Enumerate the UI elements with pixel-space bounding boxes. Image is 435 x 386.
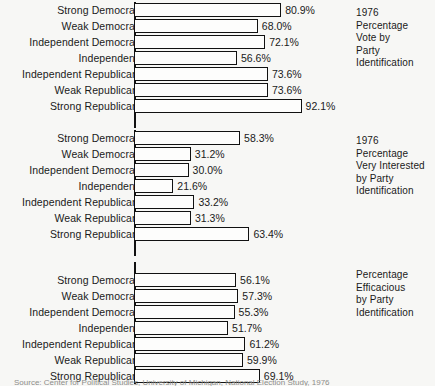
bar-category-label: Independent Democrat: [29, 304, 138, 320]
table-row: Strong Republican 92.1%: [0, 98, 435, 114]
bar-value-label: 68.0%: [258, 19, 292, 33]
bar-category-label: Independent Democrat: [29, 162, 138, 178]
table-row: Weak Republican 31.3%: [0, 210, 435, 226]
bar-category-label: Strong Republican: [50, 98, 138, 114]
panel-title-efficacious: Percentage Efficacious by Party Identifi…: [356, 269, 414, 319]
bar-category-label: Independent Republican: [22, 66, 138, 82]
bar-category-label: Weak Republican: [54, 352, 138, 368]
bar: [134, 305, 235, 319]
bar-value-label: 55.3%: [235, 305, 269, 319]
bar-value-label: 61.2%: [245, 337, 279, 351]
bar: [134, 273, 236, 287]
bar-value-label: 58.3%: [240, 131, 274, 145]
bar: [134, 337, 245, 351]
bar-value-label: 59.9%: [243, 353, 277, 367]
bar-value-label: 63.4%: [249, 227, 283, 241]
bar-category-label: Independent Democrat: [29, 34, 138, 50]
bar: [134, 19, 258, 33]
bar-category-label: Independent: [79, 178, 139, 194]
bar-value-label: 72.1%: [265, 35, 299, 49]
bar: [134, 195, 194, 209]
bar-value-label: 92.1%: [302, 99, 336, 113]
bar-category-label: Independent Republican: [22, 336, 138, 352]
bar-category-label: Weak Democrat: [62, 288, 138, 304]
bar-value-label: 56.6%: [237, 51, 271, 65]
bar-category-label: Independent: [79, 320, 139, 336]
bar: [134, 147, 191, 161]
bar-value-label: 73.6%: [268, 83, 302, 97]
bar: [134, 179, 173, 193]
figure-bar-chart-party-identification: Strong Democrat 80.9% Weak Democrat 68.0…: [0, 0, 435, 386]
bar-value-label: 73.6%: [268, 67, 302, 81]
bar: [134, 211, 191, 225]
bar: [134, 67, 268, 81]
bar-category-label: Weak Democrat: [62, 18, 138, 34]
bar-value-label: 30.0%: [189, 163, 223, 177]
table-row: Strong Republican 63.4%: [0, 226, 435, 242]
bar-value-label: 21.6%: [173, 179, 207, 193]
bar: [134, 321, 228, 335]
table-row: Weak Republican 73.6%: [0, 82, 435, 98]
panel-title-vote: 1976 Percentage Vote by Party Identifica…: [356, 7, 414, 70]
bar-category-label: Strong Republican: [50, 226, 138, 242]
bar: [134, 35, 265, 49]
bar-value-label: 33.2%: [194, 195, 228, 209]
bar-category-label: Weak Republican: [54, 210, 138, 226]
bar-category-label: Strong Democrat: [57, 272, 138, 288]
bar-value-label: 31.3%: [191, 211, 225, 225]
bar: [134, 99, 302, 113]
bar: [134, 51, 237, 65]
bar-value-label: 31.2%: [191, 147, 225, 161]
bar: [134, 227, 249, 241]
table-row: Weak Republican 59.9%: [0, 352, 435, 368]
table-row: Independent Republican 61.2%: [0, 336, 435, 352]
source-note: Source: Center for Political Studies, Un…: [14, 378, 330, 386]
bar-value-label: 56.1%: [236, 273, 270, 287]
bar: [134, 289, 238, 303]
bar: [134, 163, 189, 177]
bar: [134, 353, 243, 367]
bar-category-label: Independent: [79, 50, 139, 66]
bar-category-label: Strong Democrat: [57, 2, 138, 18]
bar-value-label: 51.7%: [228, 321, 262, 335]
bar-category-label: Strong Democrat: [57, 130, 138, 146]
panel-title-very-interested: 1976 Percentage Very Interested by Party…: [356, 135, 425, 198]
bar: [134, 83, 268, 97]
bar-value-label: 80.9%: [281, 3, 315, 17]
bar-category-label: Independent Republican: [22, 194, 138, 210]
table-row: Independent 51.7%: [0, 320, 435, 336]
bar-category-label: Weak Republican: [54, 82, 138, 98]
bar: [134, 3, 281, 17]
bar-category-label: Weak Democrat: [62, 146, 138, 162]
bar: [134, 131, 240, 145]
bar-value-label: 57.3%: [238, 289, 272, 303]
